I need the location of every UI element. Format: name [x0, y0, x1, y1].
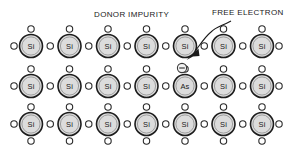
- bond-electron-icon: [220, 26, 226, 32]
- bond-electron-icon: [66, 138, 72, 144]
- bond-electron-icon: [105, 104, 111, 110]
- atom-symbol-label: Si: [181, 120, 188, 129]
- atom-si: Si: [58, 35, 81, 58]
- bond-electron-icon: [220, 138, 226, 144]
- atom-si: Si: [97, 35, 120, 58]
- atom-symbol-label: Si: [104, 82, 111, 91]
- bond-electron-icon: [143, 104, 149, 110]
- bond-electron-icon: [220, 66, 226, 72]
- atom-si: Si: [58, 113, 81, 136]
- free-electron-marker: [177, 63, 186, 72]
- atom-symbol-label: Si: [258, 82, 265, 91]
- bond-electron-icon: [201, 83, 207, 89]
- atom-symbol-label: Si: [66, 42, 73, 51]
- bond-electron-icon: [124, 83, 130, 89]
- bond-electron-icon: [11, 121, 17, 127]
- atom-si: Si: [135, 113, 158, 136]
- atom-symbol-label: As: [180, 82, 189, 91]
- atom-si: Si: [58, 75, 81, 98]
- atoms-group: SiSiSiSiSiSiSiSiSiSiSiAsSiSiSiSiSiSiSiSi…: [20, 35, 274, 136]
- bond-electron-icon: [259, 66, 265, 72]
- bond-electron-icon: [124, 43, 130, 49]
- bond-electron-icon: [28, 66, 34, 72]
- bond-electron-icon: [28, 26, 34, 32]
- atom-si: Si: [212, 113, 235, 136]
- bond-electron-icon: [163, 43, 169, 49]
- atom-si: Si: [251, 35, 274, 58]
- donor-impurity-diagram: DONOR IMPURITY FREE ELECTRON SiSiSiSiSiS…: [0, 0, 304, 151]
- bond-electron-icon: [276, 83, 282, 89]
- bond-electron-icon: [182, 104, 188, 110]
- atom-symbol-label: Si: [258, 42, 265, 51]
- atom-si: Si: [20, 35, 43, 58]
- atom-si: Si: [251, 113, 274, 136]
- atom-symbol-label: Si: [220, 82, 227, 91]
- bond-electron-icon: [259, 26, 265, 32]
- bond-electron-icon: [182, 26, 188, 32]
- atom-symbol-label: Si: [258, 120, 265, 129]
- bond-electron-icon: [276, 43, 282, 49]
- silicon-lattice-illustration: SiSiSiSiSiSiSiSiSiSiSiAsSiSiSiSiSiSiSiSi…: [0, 0, 304, 151]
- atom-si: Si: [97, 113, 120, 136]
- bond-electron-icon: [124, 121, 130, 127]
- atom-symbol-label: Si: [143, 42, 150, 51]
- bond-electron-icon: [66, 104, 72, 110]
- bond-electron-icon: [105, 138, 111, 144]
- bond-electron-icon: [86, 83, 92, 89]
- bond-electron-icon: [182, 138, 188, 144]
- bond-electron-icon: [11, 43, 17, 49]
- bond-electron-icon: [86, 43, 92, 49]
- atom-symbol-label: Si: [220, 120, 227, 129]
- bond-electron-icon: [86, 121, 92, 127]
- atom-si: Si: [251, 75, 274, 98]
- bond-electron-icon: [66, 26, 72, 32]
- bond-electron-icon: [28, 104, 34, 110]
- bond-electron-icon: [259, 138, 265, 144]
- atom-si: Si: [20, 75, 43, 98]
- atom-si: Si: [212, 35, 235, 58]
- bond-electron-icon: [105, 66, 111, 72]
- bond-electron-icon: [66, 66, 72, 72]
- atom-symbol-label: Si: [66, 120, 73, 129]
- atom-symbol-label: Si: [181, 42, 188, 51]
- atom-si: Si: [135, 75, 158, 98]
- bond-electron-icon: [240, 121, 246, 127]
- atom-symbol-label: Si: [220, 42, 227, 51]
- atom-symbol-label: Si: [27, 82, 34, 91]
- atom-symbol-label: Si: [143, 82, 150, 91]
- atom-si: Si: [135, 35, 158, 58]
- bond-electron-icon: [11, 83, 17, 89]
- bond-electron-icon: [201, 43, 207, 49]
- atom-symbol-label: Si: [27, 42, 34, 51]
- atom-symbol-label: Si: [66, 82, 73, 91]
- atom-si: Si: [212, 75, 235, 98]
- bond-electron-icon: [47, 43, 53, 49]
- bond-electron-icon: [220, 104, 226, 110]
- atom-si: Si: [20, 113, 43, 136]
- bond-electron-icon: [259, 104, 265, 110]
- bond-electron-icon: [276, 121, 282, 127]
- atom-symbol-label: Si: [27, 120, 34, 129]
- atom-as: As: [174, 75, 197, 98]
- bond-electron-icon: [240, 83, 246, 89]
- bond-electron-icon: [105, 26, 111, 32]
- bond-electron-icon: [201, 121, 207, 127]
- atom-symbol-label: Si: [143, 120, 150, 129]
- bond-electron-icon: [163, 121, 169, 127]
- atom-si: Si: [97, 75, 120, 98]
- atom-symbol-label: Si: [104, 120, 111, 129]
- bond-electron-icon: [143, 138, 149, 144]
- bond-electron-icon: [163, 83, 169, 89]
- bond-electron-icon: [143, 66, 149, 72]
- atom-si: Si: [174, 113, 197, 136]
- bond-electron-icon: [143, 26, 149, 32]
- atom-symbol-label: Si: [104, 42, 111, 51]
- bond-electron-icon: [28, 138, 34, 144]
- bond-electron-icon: [47, 121, 53, 127]
- bond-electron-icon: [47, 83, 53, 89]
- bond-electron-icon: [240, 43, 246, 49]
